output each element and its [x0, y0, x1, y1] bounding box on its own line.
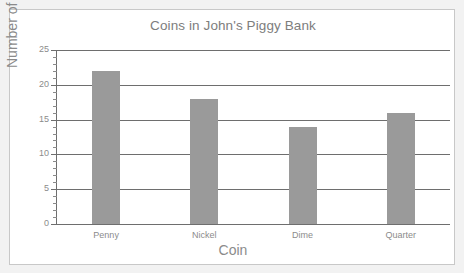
y-tick-major — [51, 224, 57, 225]
y-tick-label: 10 — [23, 148, 49, 158]
y-tick-label: 20 — [23, 79, 49, 89]
y-axis-title: Number of coins — [4, 0, 20, 68]
y-tick-major — [51, 154, 57, 155]
y-tick-minor — [53, 127, 57, 128]
plot-area: 0510152025 PennyNickelDimeQuarter — [57, 50, 450, 224]
y-tick-minor — [53, 113, 57, 114]
clipped-text-strip — [0, 0, 464, 9]
y-tick-minor — [53, 64, 57, 65]
y-tick-minor — [53, 175, 57, 176]
y-tick-minor — [53, 92, 57, 93]
bar — [92, 71, 120, 224]
bar — [387, 113, 415, 224]
y-tick-minor — [53, 71, 57, 72]
bar — [289, 127, 317, 224]
y-tick-minor — [53, 99, 57, 100]
y-tick-major — [51, 189, 57, 190]
y-tick-major — [51, 85, 57, 86]
y-tick-minor — [53, 203, 57, 204]
x-axis-title: Coin — [10, 242, 456, 258]
y-axis-line — [56, 50, 57, 224]
y-tick-minor — [53, 147, 57, 148]
y-tick-major — [51, 120, 57, 121]
y-tick-label: 15 — [23, 114, 49, 124]
x-tick-label: Quarter — [356, 230, 446, 240]
y-tick-minor — [53, 134, 57, 135]
y-tick-label: 25 — [23, 44, 49, 54]
x-axis-line — [56, 224, 450, 225]
y-tick-minor — [53, 196, 57, 197]
y-tick-minor — [53, 140, 57, 141]
x-tick-label: Nickel — [159, 230, 249, 240]
y-tick-label: 5 — [23, 183, 49, 193]
gridline — [57, 50, 450, 51]
y-tick-minor — [53, 78, 57, 79]
chart-title: Coins in John's Piggy Bank — [10, 18, 456, 33]
chart-frame: Coins in John's Piggy Bank Number of coi… — [9, 9, 455, 265]
x-tick-label: Dime — [258, 230, 348, 240]
y-tick-minor — [53, 182, 57, 183]
bar — [190, 99, 218, 224]
y-tick-minor — [53, 217, 57, 218]
y-tick-minor — [53, 161, 57, 162]
y-tick-minor — [53, 106, 57, 107]
y-tick-label: 0 — [23, 218, 49, 228]
x-tick-label: Penny — [61, 230, 151, 240]
y-tick-minor — [53, 168, 57, 169]
y-tick-minor — [53, 210, 57, 211]
y-tick-minor — [53, 57, 57, 58]
y-tick-major — [51, 50, 57, 51]
